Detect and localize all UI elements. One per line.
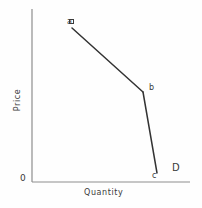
- demand-segment-bc: [143, 92, 157, 173]
- x-axis-label: Quantity: [84, 189, 123, 197]
- point-label-a: a: [67, 18, 72, 26]
- y-axis-label: Price: [14, 77, 22, 123]
- curve-label-d: D: [172, 163, 180, 173]
- demand-segment-ab: [72, 28, 143, 92]
- kinked-demand-curve-figure: a b c D 0 Price Quantity: [0, 0, 202, 208]
- plot-canvas: [0, 0, 202, 208]
- origin-label: 0: [20, 174, 26, 183]
- point-label-b: b: [149, 84, 154, 92]
- point-label-c: c: [152, 172, 157, 180]
